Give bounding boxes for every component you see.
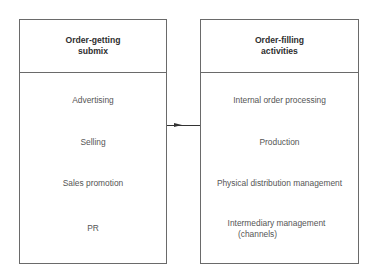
item-selling: Selling: [20, 137, 166, 148]
order-getting-title-line1: Order-getting: [66, 35, 121, 46]
item-sales-promotion: Sales promotion: [20, 178, 166, 189]
order-filling-title-line1: Order-filling: [255, 35, 304, 46]
item-intermediary-management: Intermediary management: [195, 218, 358, 229]
item-channels: (channels): [157, 229, 358, 240]
item-pr: PR: [20, 223, 166, 234]
order-filling-title-line2: activities: [255, 46, 304, 57]
order-getting-box: Order-getting submix Advertising Selling…: [19, 19, 167, 264]
order-getting-title-line2: submix: [66, 46, 121, 57]
item-advertising: Advertising: [20, 95, 166, 106]
item-physical-distribution-management: Physical distribution management: [201, 178, 358, 189]
item-internal-order-processing: Internal order processing: [201, 95, 358, 106]
order-filling-header: Order-filling activities: [201, 20, 358, 73]
arrow-right-icon: [174, 123, 182, 127]
order-filling-box: Order-filling activities Internal order …: [200, 19, 359, 264]
connector-line: [167, 125, 201, 127]
item-production: Production: [201, 137, 358, 148]
order-getting-header: Order-getting submix: [20, 20, 166, 73]
